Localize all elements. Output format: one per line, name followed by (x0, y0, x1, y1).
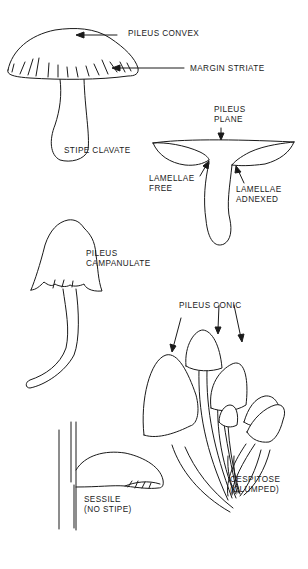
convex-mushroom-drawing (8, 29, 184, 162)
label-pileus-conic: PILEUS CONIC (179, 301, 242, 311)
campanulate-mushroom-drawing (26, 220, 102, 388)
label-margin-striate: MARGIN STRIATE (190, 64, 265, 74)
label-sessile: SESSILE (NO STIPE) (84, 495, 132, 515)
diagram-canvas: PILEUS CONVEX MARGIN STRIATE STIPE CLAVA… (0, 0, 308, 569)
label-pileus-convex: PILEUS CONVEX (128, 29, 199, 39)
label-cespitose: CESPITOSE (CLUMPED) (230, 475, 280, 495)
label-lamellae-free: LAMELLAE FREE (149, 174, 195, 194)
label-stipe-clavate: STIPE CLAVATE (64, 146, 131, 156)
label-lamellae-adnexed: LAMELLAE ADNEXED (236, 185, 282, 205)
label-pileus-campanulate: PILEUS CAMPANULATE (86, 249, 151, 269)
label-pileus-plane: PILEUS PLANE (214, 105, 246, 125)
